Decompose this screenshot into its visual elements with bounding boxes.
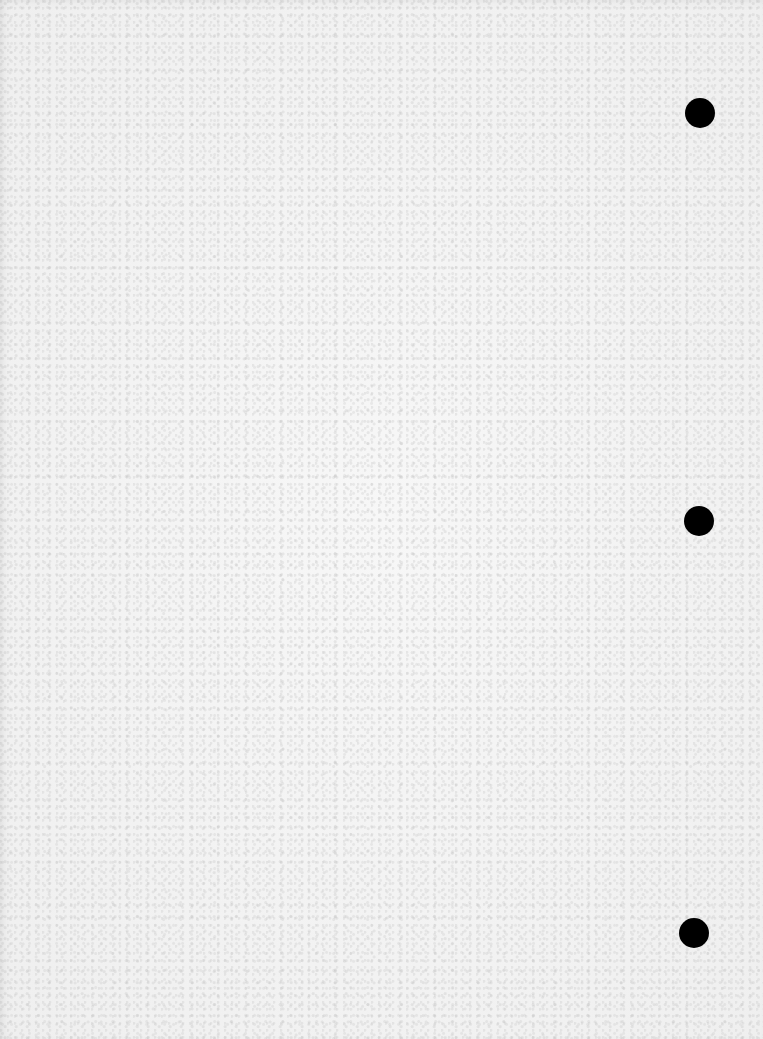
punch-hole-top	[685, 98, 715, 128]
page-text	[0, 0, 1, 1]
blank-document-page	[0, 0, 763, 1039]
punch-hole-middle	[684, 506, 714, 536]
punch-hole-bottom	[679, 918, 709, 948]
